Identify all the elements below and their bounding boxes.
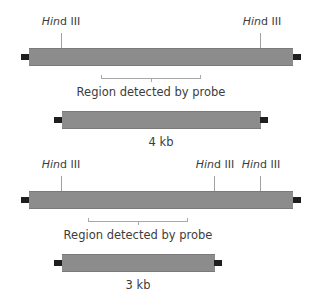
genomic-dna-bar xyxy=(29,48,293,66)
cut-site-tick xyxy=(61,176,62,192)
hindiii-label: Hind III xyxy=(42,15,81,28)
fragment-end-cap xyxy=(260,117,268,123)
cut-site-tick xyxy=(214,176,215,192)
hindiii-label: Hind III xyxy=(242,158,281,171)
enzyme-italic: Hin xyxy=(242,158,260,171)
enzyme-italic: Hin xyxy=(42,158,60,171)
probe-region-bracket-center xyxy=(151,79,152,82)
probe-region-label: Region detected by probe xyxy=(64,228,213,242)
probe-region-bracket-center xyxy=(138,222,139,225)
enzyme-italic: Hin xyxy=(243,15,261,28)
probe-region-label: Region detected by probe xyxy=(77,85,226,99)
fragment-bar-3kb xyxy=(62,254,215,272)
enzyme-plain: d III xyxy=(260,158,280,171)
fragment-bar-4kb xyxy=(62,111,261,129)
fragment-size-label: 4 kb xyxy=(149,135,174,149)
enzyme-italic: Hin xyxy=(42,15,60,28)
dna-end-cap xyxy=(293,54,301,60)
hindiii-label: Hind III xyxy=(42,158,81,171)
enzyme-plain: d III xyxy=(261,15,281,28)
enzyme-italic: Hin xyxy=(196,158,214,171)
enzyme-plain: d III xyxy=(60,15,80,28)
fragment-end-cap xyxy=(214,260,222,266)
dna-end-cap xyxy=(293,197,301,203)
cut-site-tick xyxy=(260,33,261,49)
hindiii-label: Hind III xyxy=(243,15,282,28)
enzyme-plain: d III xyxy=(60,158,80,171)
hindiii-label: Hind III xyxy=(196,158,235,171)
cut-site-tick xyxy=(260,176,261,192)
cut-site-tick xyxy=(61,33,62,49)
fragment-size-label: 3 kb xyxy=(126,278,151,292)
genomic-dna-bar xyxy=(29,191,293,209)
enzyme-plain: d III xyxy=(214,158,234,171)
